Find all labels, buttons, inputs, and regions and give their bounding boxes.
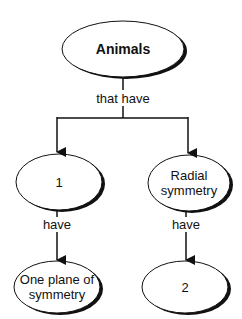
- node-radial-symmetry-label: Radial symmetry: [152, 168, 226, 198]
- node-one-plane-label: One plane of symmetry: [18, 272, 96, 302]
- node-animals-label: Animals: [62, 35, 184, 63]
- node-1-label: 1: [16, 168, 102, 196]
- link-label-have-right: have: [161, 217, 211, 232]
- link-label-have-left: have: [32, 217, 82, 232]
- link-label-that-have: that have: [83, 91, 163, 106]
- node-2-label: 2: [142, 274, 228, 300]
